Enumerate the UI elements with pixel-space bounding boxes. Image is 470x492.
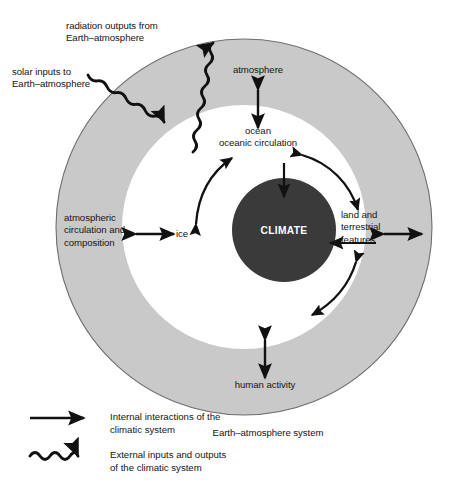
legend-label-internal-interactions: Internal interactions of the climatic sy… [110, 411, 280, 436]
label-solar-inputs: solar inputs to Earth–atmosphere [12, 66, 142, 91]
label-ice: ice [165, 228, 199, 240]
label-atmospheric-circulation-and-composition: atmospheric circulation and composition [64, 212, 142, 249]
label-climate-core: CLIMATE [234, 225, 334, 236]
label-human-activity: human activity [215, 379, 315, 391]
legend-wavy-arrow-icon [30, 453, 78, 460]
legend-label-external-inputs-outputs: External inputs and outputs of the clima… [110, 449, 290, 474]
climate-system-diagram: radiation outputs from Earth–atmosphere … [0, 0, 470, 492]
label-radiation-outputs: radiation outputs from Earth–atmosphere [66, 20, 236, 45]
label-ocean-oceanic-circulation: ocean oceanic circulation [198, 125, 318, 150]
label-atmosphere: atmosphere [208, 64, 308, 76]
label-land-and-terrestrial-features: land and terrestrial features [341, 209, 401, 246]
